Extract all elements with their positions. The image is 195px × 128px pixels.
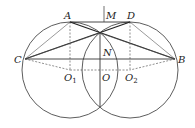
label-d: D (126, 10, 135, 21)
label-o2: O2 (125, 72, 138, 85)
label-c: C (14, 54, 22, 65)
label-o: O (102, 72, 110, 83)
label-b: B (177, 54, 185, 65)
label-o1: O1 (64, 72, 77, 85)
label-m: M (105, 10, 117, 21)
label-n: N (102, 47, 113, 58)
dashed-b-o2 (130, 59, 175, 70)
geometry-diagram: A M D C B N O O1 O2 (0, 0, 195, 128)
label-a: A (63, 10, 71, 21)
dashed-c-o1 (25, 59, 70, 70)
